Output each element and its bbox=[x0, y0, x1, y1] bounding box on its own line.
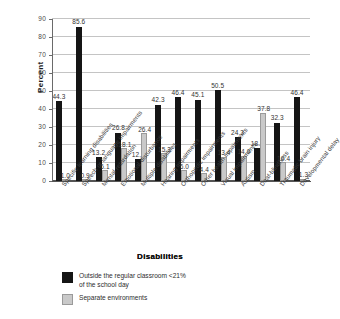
y-tick-10: 10 bbox=[20, 159, 46, 166]
legend-label-0-line2: of the school day bbox=[79, 281, 129, 288]
bar-value-label: 44.3 bbox=[52, 94, 65, 101]
bar-value-label: 37.8 bbox=[257, 106, 270, 113]
bar-1[interactable]: 37.8 bbox=[260, 113, 266, 181]
legend-label-0: Outside the regular classroom <21% of th… bbox=[79, 272, 186, 290]
legend-title: Disabilities bbox=[0, 252, 320, 261]
bar-value-label: 45.1 bbox=[191, 92, 204, 99]
legend-swatch-icon bbox=[62, 294, 73, 305]
bar-group: 44.31.0 bbox=[52, 19, 72, 181]
y-tick-40: 40 bbox=[20, 105, 46, 112]
y-tick-0: 0 bbox=[20, 177, 46, 184]
legend-label-0-line1: Outside the regular classroom <21% bbox=[79, 272, 186, 279]
bar-group: 18.137.8 bbox=[250, 19, 270, 181]
bar-value-label: 46.4 bbox=[291, 90, 304, 97]
legend-item-1[interactable]: Separate environments bbox=[62, 294, 186, 305]
y-tick-80: 80 bbox=[20, 33, 46, 40]
bar-value-label: 46.4 bbox=[171, 90, 184, 97]
legend-swatch-icon bbox=[62, 272, 73, 283]
bar-0[interactable]: 44.3 bbox=[56, 101, 62, 181]
y-axis-title: Percent bbox=[36, 62, 45, 93]
x-tick-labels: Specific learning disabilitiesSpeech or … bbox=[52, 183, 310, 247]
bar-value-label: 50.5 bbox=[211, 83, 224, 90]
y-axis-line bbox=[52, 19, 53, 182]
bar-value-label: 32.3 bbox=[271, 115, 284, 122]
legend-label-1: Separate environments bbox=[79, 294, 147, 303]
y-tick-70: 70 bbox=[20, 51, 46, 58]
y-tick-20: 20 bbox=[20, 141, 46, 148]
bar-value-label: 26.4 bbox=[138, 127, 151, 134]
bar-value-label: 42.3 bbox=[152, 97, 165, 104]
y-tick-90: 90 bbox=[20, 15, 46, 22]
legend-item-0[interactable]: Outside the regular classroom <21% of th… bbox=[62, 272, 186, 290]
bar-value-label: 85.6 bbox=[72, 19, 85, 26]
legend: Outside the regular classroom <21% of th… bbox=[62, 272, 186, 305]
y-tick-30: 30 bbox=[20, 123, 46, 130]
